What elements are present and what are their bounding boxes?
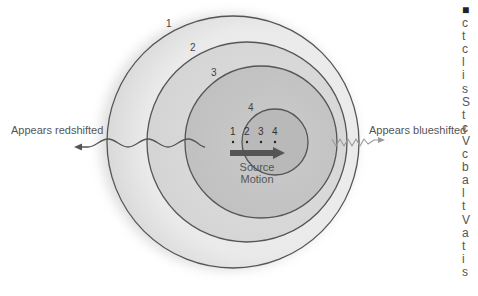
source-position-label-1: 1 bbox=[230, 127, 236, 137]
source-position-label-3: 3 bbox=[258, 127, 264, 137]
caption-glyph: t bbox=[462, 240, 478, 253]
source-dot-2 bbox=[246, 141, 248, 143]
source-dot-4 bbox=[274, 141, 276, 143]
blueshifted-label: Appears blueshifted bbox=[369, 125, 466, 136]
source-dot-3 bbox=[260, 141, 262, 143]
clipped-caption-text: ■ c t c l i s S t c V c b a l t V a t i … bbox=[462, 4, 478, 279]
caption-glyph: s bbox=[462, 83, 478, 96]
redshifted-label: Appears redshifted bbox=[11, 125, 103, 136]
source-position-label-4: 4 bbox=[272, 127, 278, 137]
caption-glyph: t bbox=[462, 200, 478, 213]
caption-glyph: a bbox=[462, 227, 478, 240]
source-motion-label: Source Motion bbox=[227, 161, 287, 185]
caption-glyph: i bbox=[462, 69, 478, 82]
wavefront-label-3: 3 bbox=[211, 68, 217, 78]
source-motion-line2: Motion bbox=[227, 173, 287, 185]
caption-glyph: t bbox=[462, 109, 478, 122]
caption-glyph: S bbox=[462, 96, 478, 109]
doppler-effect-diagram bbox=[0, 0, 478, 296]
source-motion-arrow-shaft bbox=[230, 150, 275, 156]
wavefront-label-1: 1 bbox=[166, 19, 172, 29]
caption-glyph: V bbox=[462, 214, 478, 227]
redshift-arrowhead-icon bbox=[74, 144, 82, 151]
wavefront-label-4: 4 bbox=[248, 103, 254, 113]
caption-glyph: i bbox=[462, 253, 478, 266]
source-position-label-2: 2 bbox=[244, 127, 250, 137]
caption-glyph: s bbox=[462, 266, 478, 279]
caption-glyph: c bbox=[462, 122, 478, 135]
source-motion-line1: Source bbox=[227, 161, 287, 173]
source-dot-1 bbox=[232, 141, 234, 143]
wavefront-label-2: 2 bbox=[190, 43, 196, 53]
blueshift-arrowhead-icon bbox=[378, 137, 385, 143]
